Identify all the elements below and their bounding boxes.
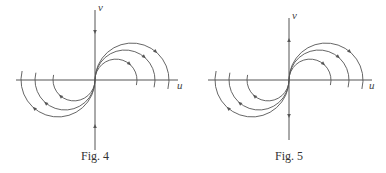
trajectory-arrow-icon xyxy=(127,61,131,65)
fig4-v-axis-label: v xyxy=(98,1,103,13)
fig5-caption: Fig. 5 xyxy=(275,149,303,164)
trajectory-arrow-icon xyxy=(321,61,325,65)
trajectory-arc-left xyxy=(53,75,95,101)
trajectory-arc-right xyxy=(95,59,137,85)
figure-4-phase-portrait xyxy=(16,10,178,150)
fig4-caption: Fig. 4 xyxy=(81,149,109,164)
v-axis-arrow-down-icon xyxy=(93,30,97,34)
trajectory-arc-right xyxy=(289,59,331,85)
trajectory-arc-left xyxy=(247,75,289,101)
phase-portrait-diagrams xyxy=(0,0,386,173)
figure-5-phase-portrait xyxy=(208,18,372,140)
v-axis-arrow-down-icon xyxy=(287,114,291,118)
fig4-u-axis-label: u xyxy=(177,79,183,91)
fig5-u-axis-label: u xyxy=(369,79,375,91)
fig5-v-axis-label: v xyxy=(292,9,297,21)
v-axis-arrow-up-icon xyxy=(93,124,97,128)
trajectory-arrow-icon xyxy=(253,95,257,99)
v-axis-arrow-up-icon xyxy=(287,38,291,42)
trajectory-arrow-icon xyxy=(59,95,63,99)
